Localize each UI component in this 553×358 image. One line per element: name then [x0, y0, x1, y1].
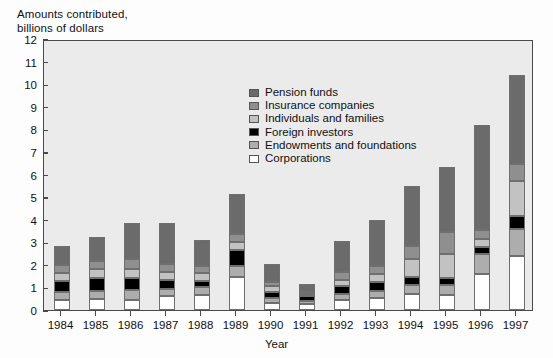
x-axis-tick-mark: [305, 311, 306, 316]
bar-segment: [54, 300, 70, 310]
x-axis-tick-mark: [235, 311, 236, 316]
bar-segment: [124, 290, 140, 300]
plot-area: Pension fundsInsurance companiesIndividu…: [43, 40, 533, 311]
bar-segment: [334, 280, 350, 287]
x-axis-tick-mark: [445, 311, 446, 316]
y-axis-tick-mark: [43, 243, 48, 244]
bar-segment: [404, 285, 420, 294]
y-axis-tick-label: 4: [31, 215, 37, 227]
bar-segment: [194, 287, 210, 295]
x-axis-tick-mark: [375, 311, 376, 316]
y-axis-tick-mark: [43, 130, 48, 131]
bar-segment: [474, 254, 490, 274]
y-axis-tick-label: 7: [31, 147, 37, 159]
y-axis-tick-label: 6: [31, 170, 37, 182]
bar-segment: [229, 234, 245, 242]
x-axis-tick-mark: [270, 311, 271, 316]
stacked-bar: [299, 39, 315, 310]
bar-segment: [159, 296, 175, 310]
bar-segment: [404, 294, 420, 310]
legend-swatch-icon: [249, 141, 259, 149]
y-axis-tick-label: 0: [31, 305, 37, 317]
bar-segment: [159, 223, 175, 264]
y-axis-tick-mark: [43, 152, 48, 153]
y-axis-tick-mark: [43, 288, 48, 289]
bar-segment: [299, 284, 315, 292]
stacked-bar: [159, 39, 175, 310]
bar-segment: [334, 286, 350, 294]
y-axis-tick-mark: [43, 310, 48, 311]
bar-segment: [54, 281, 70, 292]
bar-segment: [229, 250, 245, 266]
y-axis-tick-mark: [43, 197, 48, 198]
stacked-bar: [474, 39, 490, 310]
bar-segment: [159, 280, 175, 289]
bar-segment: [54, 265, 70, 273]
x-axis-tick-label: 1997: [503, 319, 529, 331]
bar-segment: [404, 277, 420, 285]
stacked-bar: [54, 39, 70, 310]
bar-segment: [369, 291, 385, 298]
bar-segment: [334, 300, 350, 310]
x-axis-tick-label: 1992: [328, 319, 354, 331]
y-axis-tick-mark: [43, 175, 48, 176]
bar-segment: [439, 278, 455, 285]
bar-segment: [509, 216, 525, 228]
bar-segment: [509, 164, 525, 181]
legend-item: Corporations: [249, 152, 417, 165]
legend-item-label: Endowments and foundations: [265, 139, 417, 152]
y-axis-tick-label: 8: [31, 124, 37, 136]
bar-segment: [369, 220, 385, 266]
bar-segment: [439, 295, 455, 310]
x-axis-tick-mark: [515, 311, 516, 316]
stacked-bar: [229, 39, 245, 310]
bar-segment: [194, 273, 210, 281]
bar-segment: [369, 282, 385, 291]
chart-figure: Amounts contributed, billions of dollars…: [0, 0, 553, 358]
bar-segment: [89, 291, 105, 299]
bar-segment: [159, 264, 175, 272]
legend-swatch-icon: [249, 89, 259, 97]
legend-item-label: Corporations: [265, 152, 331, 165]
bar-segment: [509, 75, 525, 164]
x-axis-tick-mark: [60, 311, 61, 316]
bar-segment: [474, 125, 490, 230]
bar-segment: [194, 295, 210, 310]
legend-swatch-icon: [249, 128, 259, 136]
bar-segment: [369, 266, 385, 274]
x-axis-tick-mark: [410, 311, 411, 316]
bar-segment: [194, 240, 210, 266]
bar-segment: [194, 281, 210, 288]
bar-segment: [229, 277, 245, 310]
bar-segment: [229, 242, 245, 250]
bar-segment: [229, 194, 245, 235]
bar-segment: [474, 247, 490, 254]
bar-segment: [264, 303, 280, 310]
y-axis-tick-label: 1: [31, 282, 37, 294]
bar-segment: [439, 254, 455, 279]
legend-item-label: Individuals and families: [265, 112, 384, 125]
stacked-bar: [404, 39, 420, 310]
bar-segment: [194, 266, 210, 273]
bar-segment: [299, 304, 315, 310]
legend-item-label: Foreign investors: [265, 126, 353, 139]
legend-item: Pension funds: [249, 86, 417, 99]
y-axis-tick-mark: [43, 85, 48, 86]
bar-segment: [474, 274, 490, 310]
stacked-bar: [439, 39, 455, 310]
x-axis-tick-mark: [340, 311, 341, 316]
stacked-bar: [369, 39, 385, 310]
x-axis-title: Year: [0, 338, 553, 350]
x-axis-tick-label: 1987: [153, 319, 179, 331]
x-axis-tick-label: 1995: [433, 319, 459, 331]
bar-segment: [474, 239, 490, 247]
legend-item-label: Insurance companies: [265, 99, 374, 112]
stacked-bar: [89, 39, 105, 310]
legend-item: Foreign investors: [249, 126, 417, 139]
bar-segment: [439, 285, 455, 295]
bar-segment: [509, 229, 525, 256]
x-axis-tick-label: 1986: [118, 319, 144, 331]
x-axis-tick-mark: [480, 311, 481, 316]
bar-segment: [509, 256, 525, 310]
y-axis-tick-label: 2: [31, 260, 37, 272]
